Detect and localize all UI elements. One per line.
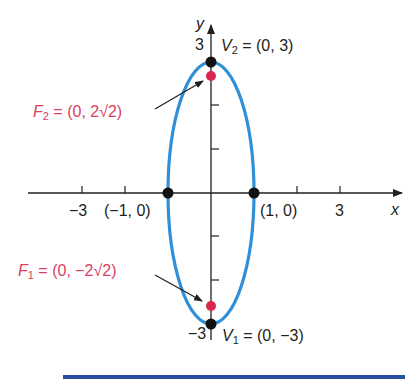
- x-tick-label-neg3: −3: [69, 203, 87, 219]
- y-tick-label-neg3: −3: [188, 326, 206, 342]
- f2-subscript: 2: [43, 110, 49, 122]
- f2-name: F: [33, 103, 43, 120]
- v2-coords: = (0, 3): [242, 37, 293, 54]
- f1-name: F: [18, 262, 28, 279]
- x-axis-label: x: [391, 202, 399, 218]
- f1-coords: = (0, −2√2): [38, 262, 116, 279]
- focus-f1-point: [206, 301, 216, 311]
- f1-subscript: 1: [28, 269, 34, 281]
- vertex-v2-point: [206, 57, 217, 68]
- focus-f1-label: F1 = (0, −2√2): [18, 263, 117, 281]
- vertex-v1-label: V1 = (0, −3): [222, 328, 304, 346]
- ellipse-diagram: [0, 0, 419, 379]
- y-axis-label: y: [196, 16, 204, 32]
- right-vertex-point: [249, 188, 260, 199]
- left-vertex-label: (−1, 0): [104, 203, 151, 219]
- v1-subscript: 1: [233, 334, 239, 346]
- right-vertex-label: (1, 0): [260, 203, 297, 219]
- v1-name: V: [222, 327, 233, 344]
- x-tick-label-3: 3: [335, 203, 344, 219]
- focus-f2-label: F2 = (0, 2√2): [33, 104, 122, 122]
- focus-f2-point: [206, 71, 216, 81]
- v2-subscript: 2: [232, 44, 238, 56]
- left-vertex-point: [163, 188, 174, 199]
- y-tick-label-3: 3: [195, 37, 204, 53]
- bottom-rule-bar: [63, 375, 405, 379]
- v2-name: V: [221, 37, 232, 54]
- v1-coords: = (0, −3): [243, 327, 303, 344]
- vertex-v1-point: [206, 319, 217, 330]
- f2-coords: = (0, 2√2): [53, 103, 122, 120]
- vertex-v2-label: V2 = (0, 3): [221, 38, 293, 56]
